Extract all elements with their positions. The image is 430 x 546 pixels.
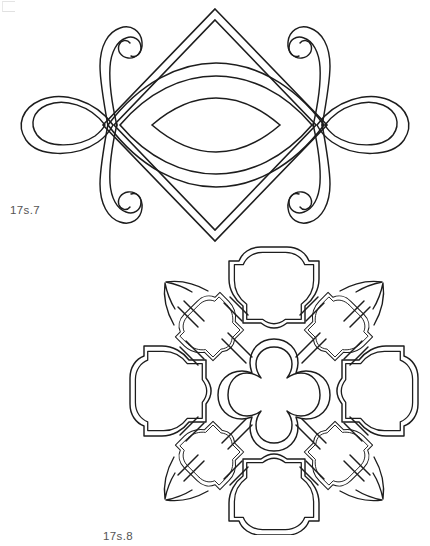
- lower-right-spiral-icon: [288, 124, 330, 223]
- figure-ornament-diamond: [0, 0, 430, 250]
- west-panel: [130, 346, 211, 436]
- nested-vesica-inner: [152, 98, 280, 152]
- right-teardrop-loop: [317, 97, 409, 154]
- upper-left-spiral-icon: [100, 27, 142, 126]
- plate-page: 17s.7: [0, 0, 430, 546]
- double-outline-diamond: [103, 9, 327, 241]
- north-panel: [229, 247, 319, 328]
- figure-ornament-quatrefoil-lattice: [118, 235, 430, 535]
- figure-caption-17s-7: 17s.7: [10, 204, 40, 216]
- nested-vesica-outer: [108, 63, 324, 187]
- upper-right-spiral-icon: [288, 27, 330, 126]
- east-panel: [337, 346, 418, 436]
- lower-left-spiral-icon: [100, 124, 142, 223]
- figure-caption-17s-8: 17s.8: [103, 530, 133, 542]
- left-teardrop-loop: [21, 97, 113, 154]
- south-panel: [229, 454, 319, 535]
- center-quatrefoil: [218, 339, 330, 451]
